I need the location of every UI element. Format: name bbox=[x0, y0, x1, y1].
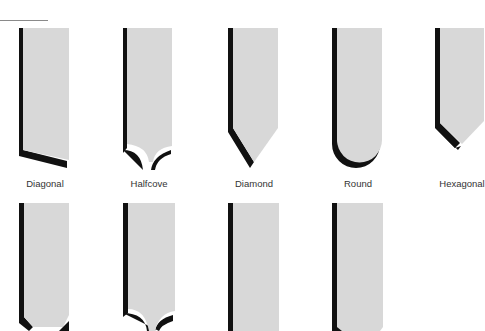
tool-round-illustration bbox=[330, 28, 386, 170]
tool-label-hexagonal: Hexagonal bbox=[412, 178, 485, 189]
tool-label-halfcove: Halfcove bbox=[99, 178, 199, 189]
tool-diamond-illustration bbox=[226, 28, 282, 170]
tool-diagonal-illustration bbox=[17, 28, 73, 170]
tool-row2-4-illustration bbox=[332, 203, 388, 331]
header-rule bbox=[0, 20, 48, 21]
tool-label-round: Round bbox=[308, 178, 408, 189]
tool-label-diamond: Diamond bbox=[204, 178, 304, 189]
tool-row2-1-illustration bbox=[19, 203, 75, 331]
tool-hexagonal-illustration bbox=[433, 28, 485, 170]
tool-row2-3-illustration bbox=[228, 203, 284, 331]
tool-label-diagonal: Diagonal bbox=[0, 178, 95, 189]
tool-halfcove-illustration bbox=[121, 28, 177, 170]
tool-row2-2-illustration bbox=[123, 203, 179, 331]
